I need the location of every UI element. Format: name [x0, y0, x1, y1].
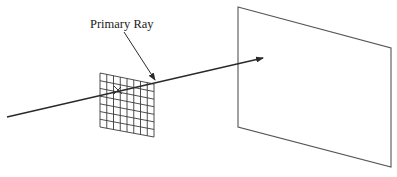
screen-plane [238, 7, 391, 167]
intersection-mark [114, 86, 122, 94]
pixel-grid [100, 73, 154, 137]
primary-ray-label: Primary Ray [90, 17, 154, 31]
primary-ray-line [7, 58, 263, 117]
primary-ray-diagram: Primary Ray [0, 0, 397, 177]
label-leader-arrow [124, 32, 155, 80]
